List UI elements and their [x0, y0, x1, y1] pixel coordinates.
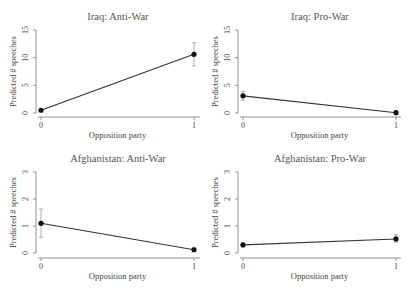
x-axis-label: Opposition party: [89, 271, 147, 281]
y-tick-label: 15: [21, 26, 30, 34]
data-point: [393, 236, 398, 241]
y-tick-label: 3: [223, 170, 232, 174]
y-tick-label: 3: [21, 170, 30, 174]
x-axis-label: Opposition party: [291, 130, 349, 140]
y-tick-label: 15: [223, 26, 232, 34]
x-tick-label: 0: [39, 262, 43, 271]
y-tick-label: 1: [21, 224, 30, 228]
panel-4: Afghanistan: Pro-War0123Predicted # spee…: [210, 153, 401, 281]
panel-title: Afghanistan: Anti-War: [70, 153, 166, 164]
data-point: [191, 52, 196, 57]
y-axis-label: Predicted # speeches: [8, 177, 18, 248]
y-axis-label: Predicted # speeches: [210, 36, 220, 107]
y-tick-label: 10: [223, 54, 232, 62]
y-tick-label: 2: [223, 197, 232, 201]
x-axis-label: Opposition party: [89, 130, 147, 140]
panel-2: Iraq: Pro-War051015Predicted # speeches0…: [210, 11, 401, 140]
chart-figure: Iraq: Anti-War051015Predicted # speeches…: [0, 0, 413, 292]
y-tick-label: 0: [223, 111, 232, 115]
y-tick-label: 5: [21, 83, 30, 87]
y-axis-label: Predicted # speeches: [8, 36, 18, 107]
x-axis-label: Opposition party: [291, 271, 349, 281]
x-tick-label: 1: [192, 121, 196, 130]
y-tick-label: 5: [223, 83, 232, 87]
data-point: [393, 110, 398, 115]
panel-title: Iraq: Pro-War: [291, 11, 349, 22]
series-line: [243, 239, 396, 245]
y-tick-label: 0: [21, 251, 30, 255]
data-point: [240, 242, 245, 247]
panel-title: Iraq: Anti-War: [87, 11, 149, 22]
y-tick-label: 10: [21, 54, 30, 62]
y-tick-label: 0: [21, 111, 30, 115]
x-tick-label: 1: [192, 262, 196, 271]
y-axis-label: Predicted # speeches: [210, 177, 220, 248]
y-tick-label: 0: [223, 251, 232, 255]
data-point: [191, 247, 196, 252]
y-tick-label: 2: [21, 197, 30, 201]
panel-1: Iraq: Anti-War051015Predicted # speeches…: [8, 11, 200, 140]
panel-3: Afghanistan: Anti-War0123Predicted # spe…: [8, 153, 200, 281]
x-tick-label: 1: [394, 121, 398, 130]
series-line: [41, 223, 194, 249]
data-point: [38, 221, 43, 226]
data-point: [240, 93, 245, 98]
x-tick-label: 0: [241, 262, 245, 271]
x-tick-label: 1: [394, 262, 398, 271]
series-line: [41, 54, 194, 110]
panel-title: Afghanistan: Pro-War: [274, 153, 367, 164]
series-line: [243, 96, 396, 113]
x-tick-label: 0: [39, 121, 43, 130]
x-tick-label: 0: [241, 121, 245, 130]
data-point: [38, 108, 43, 113]
y-tick-label: 1: [223, 224, 232, 228]
